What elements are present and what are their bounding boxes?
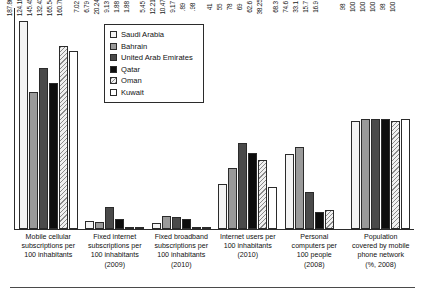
legend-swatch-icon (110, 43, 117, 50)
category-label-line: Fixed internet (83, 233, 148, 242)
bar[interactable]: 7.02 (85, 221, 94, 229)
legend-item-saudi-arabia[interactable]: Saudi Arabia (110, 29, 193, 41)
bar-chart: 187.86124.18145.45132.43165.54160.787.02… (0, 0, 425, 302)
bar[interactable]: 78 (238, 143, 247, 229)
bar[interactable]: 55 (228, 168, 237, 229)
bar-slot: 145.45 (39, 8, 48, 229)
bar[interactable]: 145.45 (39, 68, 48, 229)
bar[interactable]: 1.88 (135, 227, 144, 229)
bar[interactable]: 9.13 (115, 219, 124, 229)
bar[interactable]: 5.45 (152, 223, 161, 229)
bar-value-label: 100 (399, 2, 406, 12)
bar[interactable]: 187.86 (19, 21, 28, 229)
bar[interactable]: 165.54 (59, 46, 68, 229)
bar[interactable]: 15.7 (315, 212, 324, 229)
category-label-line: 100 inhabitants (16, 251, 81, 260)
bar[interactable]: 6.79 (95, 222, 104, 230)
bar[interactable]: 12.21 (162, 216, 171, 230)
category-label: Fixed broadbandsubscriptions per100 inha… (148, 233, 215, 270)
bar[interactable]: 98 (351, 121, 360, 229)
footer-divider (10, 287, 415, 288)
legend-item-oman[interactable]: Oman (110, 75, 193, 87)
bar-slot: 98 (351, 8, 360, 229)
bar-slot: 98 (391, 8, 400, 229)
bar-slot: 6.79 (95, 8, 104, 229)
bar[interactable]: 1.88 (125, 227, 134, 229)
category-label-line: (2010) (216, 251, 281, 260)
bar-group: 68.374.633.115.716.9 (281, 8, 348, 229)
category-label-line: Mobile cellular (16, 233, 81, 242)
category-label-line: (2010) (149, 261, 214, 270)
legend-item-bahrain[interactable]: Bahrain (110, 41, 193, 53)
bar-slot (335, 8, 344, 229)
category-axis-labels: Mobile cellularsubscriptions per100 inha… (15, 233, 414, 270)
bar[interactable]: 69 (248, 153, 257, 229)
category-label-line: 100 inhabitants (149, 251, 214, 260)
legend-item-label: Oman (121, 76, 142, 85)
bar[interactable]: 62.6 (258, 160, 267, 229)
bar[interactable]: 100 (401, 119, 410, 230)
bar[interactable]: 100 (381, 119, 390, 230)
legend-item-united-arab-emirates[interactable]: United Arab Emirates (110, 52, 193, 64)
bar-slot: 38.25 (268, 8, 277, 229)
bar[interactable]: 41 (218, 184, 227, 229)
bar-slot: 165.54 (59, 8, 68, 229)
category-label-line: phone network (349, 251, 414, 260)
bar-slot: 41 (218, 8, 227, 229)
bar[interactable]: 10.47 (172, 217, 181, 229)
category-label-line: covered by mobile (349, 242, 414, 251)
bar[interactable]: 38.25 (268, 187, 277, 229)
bar[interactable]: .98 (202, 227, 211, 229)
chart-legend: Saudi ArabiaBahrainUnited Arab EmiratesQ… (104, 24, 204, 103)
legend-swatch-icon (110, 31, 117, 38)
legend-swatch-icon (110, 77, 117, 84)
category-label: Mobile cellularsubscriptions per100 inha… (15, 233, 82, 270)
category-label-line: subscriptions per (149, 242, 214, 251)
bar-slot: 100 (381, 8, 390, 229)
bar-group: 4155786962.638.25 (215, 8, 282, 229)
bar-slot: 100 (401, 8, 410, 229)
bar[interactable]: 98 (391, 121, 400, 229)
bar-slot: 33.1 (305, 8, 314, 229)
bar-slot: 100 (361, 8, 370, 229)
bar[interactable]: .89 (192, 227, 201, 229)
category-label-line: computers per (282, 242, 347, 251)
category-label-line: (2009) (83, 261, 148, 270)
category-label-line: (%, 2008) (349, 261, 414, 270)
bar[interactable]: 124.18 (29, 92, 38, 229)
category-label-line: (2008) (282, 261, 347, 270)
bar[interactable]: 100 (361, 119, 370, 230)
bar-slot: 78 (238, 8, 247, 229)
category-label-line: subscriptions per (83, 242, 148, 251)
legend-swatch-icon (110, 66, 117, 73)
legend-item-qatar[interactable]: Qatar (110, 64, 193, 76)
category-label-line: Fixed broadband (149, 233, 214, 242)
bar-slot: 62.6 (258, 8, 267, 229)
bar-slot: 100 (371, 8, 380, 229)
legend-item-label: Kuwait (121, 88, 144, 97)
bar[interactable]: 74.6 (295, 147, 304, 229)
bar[interactable]: 160.78 (69, 51, 78, 229)
legend-item-label: Qatar (121, 65, 140, 74)
x-axis-line (14, 229, 414, 230)
legend-item-label: Bahrain (121, 42, 147, 51)
bar-slot: 160.78 (69, 8, 78, 229)
category-label: Personalcomputers per100 people(2008) (281, 233, 348, 270)
legend-item-kuwait[interactable]: Kuwait (110, 87, 193, 99)
bar[interactable]: 20.24 (105, 207, 114, 229)
category-label: Populationcovered by mobilephone network… (348, 233, 415, 270)
bar[interactable]: 68.3 (285, 154, 294, 230)
legend-swatch-icon (110, 54, 117, 61)
bar[interactable]: 33.1 (305, 192, 314, 229)
bar-slot: 15.7 (315, 8, 324, 229)
bar[interactable]: 132.43 (49, 83, 58, 229)
bar[interactable]: 9.17 (182, 219, 191, 229)
bar[interactable]: 16.9 (325, 210, 334, 229)
category-label-line: Internet users per (216, 233, 281, 242)
category-label-line: Population (349, 233, 414, 242)
category-label-line: 100 inhabitants (216, 242, 281, 251)
bar-group: 9810010010098100 (348, 8, 415, 229)
category-label-line: Personal (282, 233, 347, 242)
bar-slot: 187.86 (19, 8, 28, 229)
bar[interactable]: 100 (371, 119, 380, 230)
